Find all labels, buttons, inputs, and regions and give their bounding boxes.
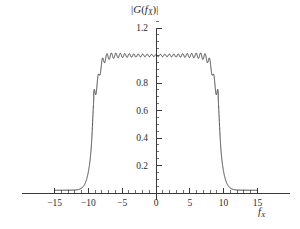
y-tick-label: 0.6 [136,106,148,116]
x-tick-label: −15 [47,198,62,208]
x-tick-label: 15 [253,198,263,208]
x-tick-label: −10 [81,198,96,208]
y-tick-label: 1.2 [136,23,148,33]
x-tick-label: 0 [154,198,159,208]
x-tick-label: 10 [219,198,229,208]
figure-container: |G(fX)| fX −15−10−5051015 0.20.40.60.81.… [0,0,300,229]
x-tick-label: −5 [117,198,127,208]
y-tick-label: 0.8 [136,78,148,88]
y-tick-label: 0.2 [136,161,148,171]
plot-area: −15−10−5051015 0.20.40.60.81.2 [0,0,300,229]
y-tick-labels: 0.20.40.60.81.2 [136,23,148,171]
x-tick-labels: −15−10−5051015 [47,198,262,208]
y-tick-label: 0.4 [136,133,148,143]
x-tick-label: 5 [187,198,192,208]
